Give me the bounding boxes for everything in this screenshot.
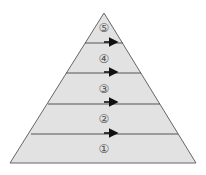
level-3-label: ③ [99, 82, 110, 96]
level-2-label: ② [99, 112, 110, 126]
level-5-label: ⑤ [99, 21, 110, 35]
level-4-label: ④ [99, 52, 110, 66]
level-1-label: ① [99, 142, 110, 156]
pyramid-diagram: ⑤ ④ ③ ② ① [0, 0, 206, 175]
